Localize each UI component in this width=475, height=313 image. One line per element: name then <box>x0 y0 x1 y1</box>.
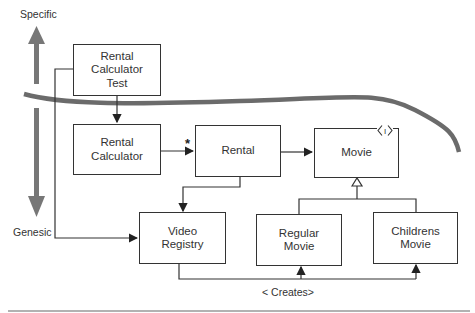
specific-arrow-icon <box>28 26 45 84</box>
box-regular-movie: Regular Movie <box>256 214 342 266</box>
genesic-label: Genesic <box>13 226 52 238</box>
svg-text:I: I <box>384 127 386 136</box>
multiplicity-star: * <box>185 136 190 151</box>
box-rental: Rental <box>195 125 281 177</box>
box-rental-calculator: Rental Calculator <box>73 124 161 175</box>
box-childrens-movie: Childrens Movie <box>373 212 458 264</box>
generalization-triangle-icon <box>352 178 362 186</box>
interface-marker-icon: I <box>377 122 393 133</box>
creates-label: < Creates> <box>262 286 314 298</box>
box-rental-calculator-test: Rental Calculator Test <box>73 44 161 96</box>
genesic-arrow-icon <box>28 108 45 217</box>
specific-label: Specific <box>20 8 57 20</box>
box-video-registry: Video Registry <box>139 212 226 264</box>
